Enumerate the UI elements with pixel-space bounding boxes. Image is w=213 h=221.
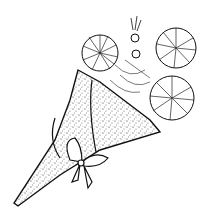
- flower-bottom-right: [150, 76, 194, 120]
- foliage: [110, 60, 150, 93]
- bouquet-illustration: [0, 0, 213, 221]
- flower-top-right: [156, 28, 196, 68]
- flower-left: [82, 35, 118, 71]
- buds: [131, 16, 141, 58]
